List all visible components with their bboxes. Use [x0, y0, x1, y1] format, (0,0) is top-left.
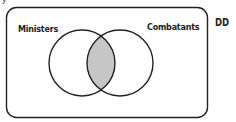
universe-label: DD	[215, 17, 229, 28]
combatants-label: Combatants	[147, 21, 199, 32]
venn-diagram	[0, 0, 236, 122]
ministers-label: Ministers	[18, 23, 58, 34]
